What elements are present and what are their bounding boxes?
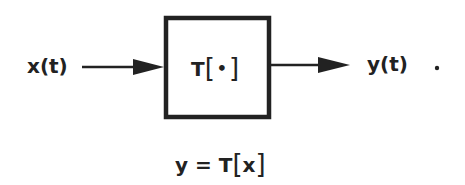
input-signal-label: x(t) [27,56,68,76]
equation-close-bracket: ] [255,149,265,179]
output-arrow [271,57,350,73]
trailing-period-dot [435,66,439,70]
system-equation: y = T[x] [175,150,266,176]
equation-open-bracket: [ [232,149,242,179]
equation-argument: x [243,153,256,177]
system-operator-label: T[•] [191,54,239,80]
operator-symbol: T [191,57,205,81]
open-bracket: [ [205,53,215,83]
equation-equals: = [195,153,212,177]
input-arrow [82,59,164,75]
output-signal-label: y(t) [367,54,408,74]
equation-operator: T [219,153,233,177]
operator-argument-dot: • [215,59,229,78]
system-block-diagram: x(t) T[•] y(t) y = T[x] [0,0,465,185]
close-bracket: ] [229,53,239,83]
equation-lhs: y [175,153,188,177]
